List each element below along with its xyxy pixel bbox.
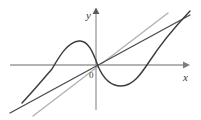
cubic-curve — [22, 11, 190, 103]
figure-container: y x 0 — [0, 0, 201, 120]
origin-label: 0 — [89, 70, 94, 80]
tangent-line-dark — [10, 15, 190, 113]
x-axis-arrowhead — [183, 61, 190, 68]
y-axis-arrowhead — [93, 8, 100, 15]
y-axis-label: y — [85, 9, 91, 21]
coordinate-plot: y x 0 — [0, 0, 201, 120]
x-axis-label: x — [182, 71, 188, 83]
